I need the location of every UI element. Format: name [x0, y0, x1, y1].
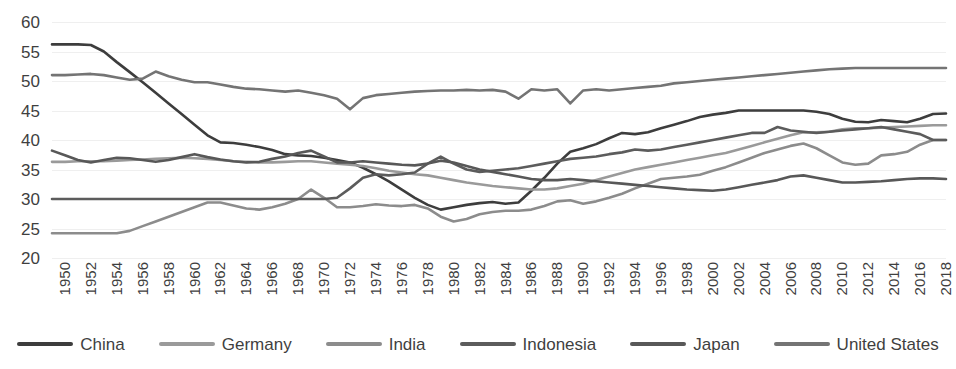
legend-item-germany[interactable]: Germany: [159, 336, 292, 353]
x-axis-tick-label: 1982: [472, 262, 487, 295]
x-axis-tick-label: 1970: [316, 262, 331, 295]
x-axis-tick-label: 1992: [601, 262, 616, 295]
legend-item-japan[interactable]: Japan: [630, 336, 739, 353]
series-line-indonesia: [52, 127, 946, 199]
x-axis-tick-label: 1958: [161, 262, 176, 295]
legend-item-indonesia[interactable]: Indonesia: [460, 336, 597, 353]
x-axis-tick-label: 1972: [342, 262, 357, 295]
x-axis-tick-label: 1964: [238, 262, 253, 295]
y-axis-tick-label: 35: [21, 161, 40, 178]
y-axis-tick-label: 30: [21, 191, 40, 208]
legend-label: India: [389, 336, 426, 353]
x-axis-tick-label: 1952: [83, 262, 98, 295]
x-axis-tick-label: 1966: [264, 262, 279, 295]
y-axis-tick-label: 25: [21, 220, 40, 237]
x-axis-tick-label: 1996: [653, 262, 668, 295]
legend-item-china[interactable]: China: [17, 336, 124, 353]
x-axis-tick-label: 1994: [627, 262, 642, 295]
y-axis-tick-label: 20: [21, 250, 40, 267]
x-axis-tick-label: 2004: [757, 262, 772, 295]
chart-legend: ChinaGermanyIndiaIndonesiaJapanUnited St…: [0, 330, 956, 358]
x-axis-tick-label: 1980: [446, 262, 461, 295]
x-axis-tick-label: 1968: [290, 262, 305, 295]
legend-label: China: [80, 336, 124, 353]
y-axis-tick-label: 50: [21, 73, 40, 90]
legend-swatch-icon: [159, 342, 215, 346]
legend-swatch-icon: [17, 342, 73, 346]
y-axis-tick-label: 45: [21, 102, 40, 119]
legend-label: United States: [837, 336, 939, 353]
x-axis-tick-label: 2008: [808, 262, 823, 295]
x-axis-tick-label: 2010: [834, 262, 849, 295]
series-layer: [52, 22, 946, 258]
x-axis-tick-label: 1950: [57, 262, 72, 295]
legend-swatch-icon: [774, 342, 830, 346]
x-axis-tick-label: 1974: [368, 262, 383, 295]
y-axis-labels: 202530354045505560: [0, 22, 46, 258]
y-axis-tick-label: 40: [21, 132, 40, 149]
x-axis-tick-label: 1976: [394, 262, 409, 295]
x-axis-tick-label: 2012: [860, 262, 875, 295]
y-axis-tick-label: 55: [21, 43, 40, 60]
x-axis-tick-label: 1998: [679, 262, 694, 295]
x-axis-tick-label: 2006: [783, 262, 798, 295]
x-axis-tick-label: 1984: [498, 262, 513, 295]
x-axis-labels: 1950195219541956195819601962196419661968…: [52, 262, 946, 322]
x-axis-tick-label: 2000: [705, 262, 720, 295]
x-axis-tick-label: 1988: [549, 262, 564, 295]
legend-swatch-icon: [326, 342, 382, 346]
x-axis-tick-label: 2002: [731, 262, 746, 295]
legend-swatch-icon: [460, 342, 516, 346]
x-axis-tick-label: 2016: [912, 262, 927, 295]
x-axis-tick-label: 1962: [212, 262, 227, 295]
line-chart: 202530354045505560 195019521954195619581…: [0, 0, 956, 369]
x-axis-tick-label: 1990: [575, 262, 590, 295]
legend-label: Indonesia: [523, 336, 597, 353]
x-axis-tick-label: 2018: [938, 262, 953, 295]
y-axis-tick-label: 60: [21, 14, 40, 31]
series-line-china: [52, 44, 946, 209]
legend-label: Japan: [693, 336, 739, 353]
x-axis-tick-label: 1954: [109, 262, 124, 295]
x-axis-tick-label: 1960: [187, 262, 202, 295]
x-axis-tick-label: 2014: [886, 262, 901, 295]
x-axis-tick-label: 1956: [135, 262, 150, 295]
legend-item-united-states[interactable]: United States: [774, 336, 939, 353]
legend-swatch-icon: [630, 342, 686, 346]
series-line-united-states: [52, 68, 946, 109]
plot-area: [52, 22, 946, 258]
legend-item-india[interactable]: India: [326, 336, 426, 353]
x-axis-tick-label: 1986: [523, 262, 538, 295]
legend-label: Germany: [222, 336, 292, 353]
gridline: [52, 258, 946, 259]
x-axis-tick-label: 1978: [420, 262, 435, 295]
